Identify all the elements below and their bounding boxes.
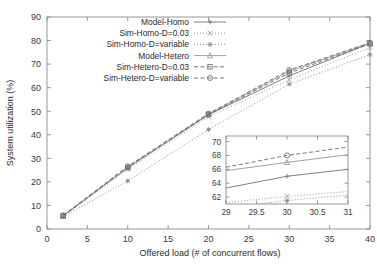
- inset-x-tick-label: 31: [343, 208, 353, 217]
- y-tick-label: 90: [31, 12, 41, 22]
- x-tick-label: 35: [325, 234, 335, 244]
- inset-x-tick-label: 29: [221, 208, 231, 217]
- x-tick-label: 30: [284, 234, 294, 244]
- y-tick-label: 40: [31, 130, 41, 140]
- x-axis-title: Offered load (# of concurrent flows): [140, 248, 281, 258]
- inset-y-tick-label: 64: [212, 179, 222, 188]
- legend-label-6: Sim-Hetero-D=variable: [104, 73, 190, 83]
- chart-figure: 05101520253035400102030405060708090Offer…: [0, 0, 377, 277]
- inset-y-tick-label: 62: [212, 193, 222, 202]
- y-axis-title: System utilization (%): [5, 80, 15, 167]
- y-tick-label: 60: [31, 83, 41, 93]
- y-tick-label: 0: [36, 224, 41, 234]
- legend: Model-HomoSim-Homo-D=0.03Sim-Homo-D=vari…: [104, 17, 226, 83]
- y-tick-label: 10: [31, 201, 41, 211]
- y-tick-label: 80: [31, 36, 41, 46]
- y-tick-label: 50: [31, 107, 41, 117]
- inset-x-tick-label: 30.5: [310, 208, 326, 217]
- legend-label-3: Sim-Homo-D=variable: [106, 39, 189, 49]
- y-tick-label: 70: [31, 59, 41, 69]
- x-tick-label: 25: [244, 234, 254, 244]
- x-tick-label: 40: [365, 234, 375, 244]
- x-tick-label: 15: [163, 234, 173, 244]
- legend-label-2: Sim-Homo-D=0.03: [119, 28, 189, 38]
- inset-y-tick-label: 70: [212, 138, 222, 147]
- inset-x-tick-label: 29.5: [249, 208, 265, 217]
- line-chart: 05101520253035400102030405060708090Offer…: [0, 0, 377, 277]
- inset-y-tick-label: 68: [212, 151, 222, 160]
- inset-plot: 2929.53030.5316264666870: [212, 136, 353, 217]
- inset-x-tick-label: 30: [282, 208, 292, 217]
- x-tick-label: 10: [123, 234, 133, 244]
- y-tick-label: 30: [31, 154, 41, 164]
- inset-y-tick-label: 66: [212, 165, 222, 174]
- y-tick-label: 20: [31, 177, 41, 187]
- legend-label-4: Model-Hetero: [138, 51, 189, 61]
- inset-frame: [226, 136, 348, 204]
- legend-label-1: Model-Homo: [141, 17, 189, 27]
- x-tick-label: 20: [203, 234, 213, 244]
- x-tick-label: 5: [85, 234, 90, 244]
- legend-label-5: Sim-Hetero-D=0.03: [117, 62, 190, 72]
- x-tick-label: 0: [44, 234, 49, 244]
